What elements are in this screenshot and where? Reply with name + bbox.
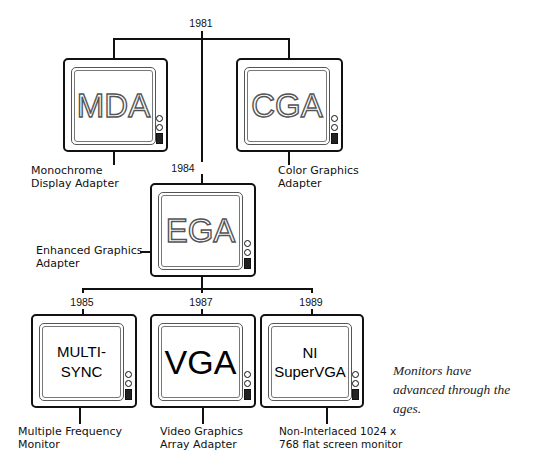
monitor-cga: CGA (236, 58, 343, 152)
label-vga: Video GraphicsArray Adapter (160, 425, 243, 451)
connector-multisync-drop (82, 288, 84, 293)
connector-top-horizontal (113, 38, 289, 40)
year-label-1985: 1985 (62, 296, 102, 308)
label-cga: Color GraphicsAdapter (278, 164, 359, 190)
year-label-1984: 1984 (163, 162, 203, 174)
year-label-1987: 1987 (181, 296, 221, 308)
monitor-multisync: MULTI-SYNC (31, 314, 137, 408)
connector-vga-label (202, 408, 204, 424)
monitor-controls-icon (331, 115, 338, 144)
monitor-controls-icon (352, 371, 359, 400)
monitor-vga: VGA (150, 314, 256, 408)
year-label-1989: 1989 (291, 296, 331, 308)
monitor-controls-icon (244, 240, 251, 269)
connector-nisvga-drop (311, 288, 313, 293)
connector-vga-drop (201, 288, 203, 293)
screen-text-ega: EGA (166, 212, 236, 250)
connector-multisync-label (79, 408, 81, 424)
year-label-1981: 1981 (181, 17, 221, 29)
monitor-controls-icon (125, 371, 132, 400)
monitor-controls-icon (244, 371, 251, 400)
label-multisync: Multiple FrequencyMonitor (18, 425, 122, 451)
monitor-ega: EGA (150, 183, 256, 277)
screen-text-mda: MDA (77, 87, 150, 125)
connector-nisvga-label (326, 408, 328, 424)
connector-bottom-horizontal (82, 288, 312, 290)
label-mda: MonochromeDisplay Adapter (31, 164, 119, 190)
screen-text-ni-supervga: NISuperVGA (274, 343, 346, 381)
figure-caption: Monitors haveadvanced through theages. (393, 361, 510, 418)
connector-top-trunk (201, 31, 203, 183)
connector-cga-drop (288, 38, 290, 59)
screen-text-vga: VGA (165, 343, 237, 382)
screen-text-multisync: MULTI-SYNC (57, 342, 106, 382)
monitor-controls-icon (156, 115, 163, 144)
screen-text-cga: CGA (251, 87, 323, 125)
label-ega: Enhanced GraphicsAdapter (36, 244, 142, 270)
label-ni-supervga: Non-Interlaced 1024 x768 flat screen mon… (279, 425, 402, 451)
connector-mda-drop (113, 38, 115, 59)
monitor-mda: MDA (63, 58, 168, 152)
monitor-ni-supervga: NISuperVGA (260, 314, 364, 408)
